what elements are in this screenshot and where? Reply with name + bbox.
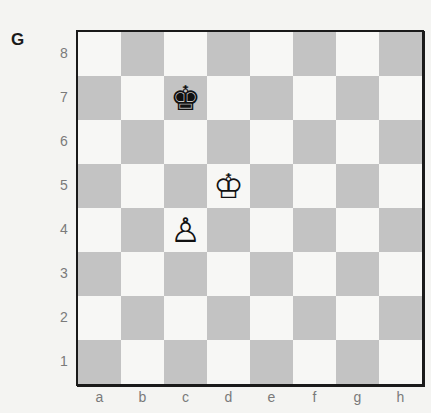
rank-label-5: 5 [58,177,70,193]
square-g4 [336,208,379,252]
square-h6 [379,120,422,164]
file-label-e: e [262,389,282,405]
square-a3 [78,252,121,296]
square-e1 [250,340,293,384]
square-g7 [336,76,379,120]
square-d1 [207,340,250,384]
square-c7: ♚ [164,76,207,120]
square-d7 [207,76,250,120]
square-b4 [121,208,164,252]
square-e5 [250,164,293,208]
square-h2 [379,296,422,340]
square-d6 [207,120,250,164]
square-g1 [336,340,379,384]
square-f7 [293,76,336,120]
square-h8 [379,32,422,76]
square-g3 [336,252,379,296]
square-b5 [121,164,164,208]
square-e8 [250,32,293,76]
square-c4: ♙ [164,208,207,252]
square-f1 [293,340,336,384]
white-pawn-icon: ♙ [170,213,200,247]
square-e6 [250,120,293,164]
black-king-icon: ♚ [170,81,200,115]
square-a7 [78,76,121,120]
square-f3 [293,252,336,296]
file-label-c: c [176,389,196,405]
square-g2 [336,296,379,340]
square-b3 [121,252,164,296]
file-label-f: f [305,389,325,405]
square-a8 [78,32,121,76]
file-label-g: g [348,389,368,405]
square-a6 [78,120,121,164]
file-label-d: d [219,389,239,405]
square-g6 [336,120,379,164]
square-e2 [250,296,293,340]
square-e3 [250,252,293,296]
square-d5: ♔ [207,164,250,208]
square-h1 [379,340,422,384]
square-h4 [379,208,422,252]
square-c2 [164,296,207,340]
square-f4 [293,208,336,252]
chess-diagram-page: G ♚♔♙ 87654321 abcdefgh [0,0,431,413]
square-b1 [121,340,164,384]
square-f2 [293,296,336,340]
square-b2 [121,296,164,340]
chess-board: ♚♔♙ [76,30,424,386]
rank-label-4: 4 [58,221,70,237]
square-g5 [336,164,379,208]
rank-label-7: 7 [58,89,70,105]
square-c1 [164,340,207,384]
white-king-icon: ♔ [213,169,243,203]
square-c5 [164,164,207,208]
square-f8 [293,32,336,76]
square-d4 [207,208,250,252]
square-c3 [164,252,207,296]
square-e7 [250,76,293,120]
rank-label-3: 3 [58,265,70,281]
square-h3 [379,252,422,296]
square-d8 [207,32,250,76]
rank-label-1: 1 [58,353,70,369]
square-b8 [121,32,164,76]
file-label-b: b [133,389,153,405]
square-b6 [121,120,164,164]
rank-label-8: 8 [58,45,70,61]
square-a4 [78,208,121,252]
diagram-label: G [11,30,24,50]
square-g8 [336,32,379,76]
square-h5 [379,164,422,208]
square-h7 [379,76,422,120]
square-d3 [207,252,250,296]
rank-label-6: 6 [58,133,70,149]
square-e4 [250,208,293,252]
rank-label-2: 2 [58,309,70,325]
square-d2 [207,296,250,340]
square-a1 [78,340,121,384]
square-f6 [293,120,336,164]
square-a2 [78,296,121,340]
square-b7 [121,76,164,120]
square-a5 [78,164,121,208]
file-label-h: h [391,389,411,405]
file-label-a: a [90,389,110,405]
square-c8 [164,32,207,76]
square-f5 [293,164,336,208]
square-c6 [164,120,207,164]
